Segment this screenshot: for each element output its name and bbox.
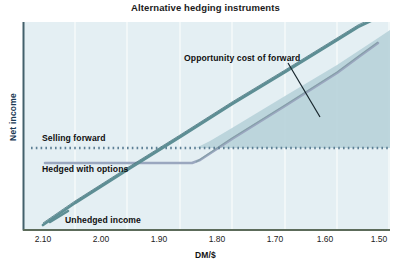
x-tick-label: 1.50 xyxy=(371,234,388,244)
annotation-unhedged-income: Unhedged income xyxy=(65,215,141,225)
annotation-hedged-with-options: Hedged with options xyxy=(42,164,128,174)
x-tick-label: 1.60 xyxy=(317,234,334,244)
x-tick-label: 1.90 xyxy=(151,234,168,244)
x-tick-label: 1.70 xyxy=(267,234,284,244)
annotation-opportunity-cost-of-forward: Opportunity cost of forward xyxy=(184,53,300,63)
x-axis-label: DM/$ xyxy=(0,250,411,260)
x-tick-label: 2.10 xyxy=(35,234,52,244)
x-tick-label: 1.80 xyxy=(209,234,226,244)
annotation-selling-forward: Selling forward xyxy=(42,133,106,143)
chart-figure: Alternative hedging instruments Net inco… xyxy=(0,0,411,265)
x-tick-label: 2.00 xyxy=(93,234,110,244)
